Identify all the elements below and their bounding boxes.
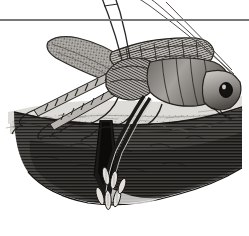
engraving-plate: Grasshopper depositing eggs in soil copp… (0, 0, 249, 236)
horizontal-rule (0, 19, 249, 21)
bottom-margin (0, 228, 249, 236)
illustration-canvas (0, 0, 249, 236)
compound-eye-icon (220, 83, 233, 98)
right-margin (243, 0, 249, 236)
